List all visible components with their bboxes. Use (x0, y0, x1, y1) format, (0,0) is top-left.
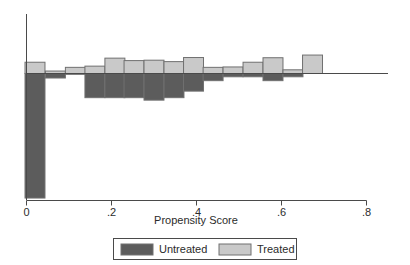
legend-label-untreated: Untreated (159, 243, 207, 255)
bar-treated-0 (25, 62, 45, 73)
bar-untreated-9 (203, 74, 223, 81)
bar-untreated-5 (124, 74, 144, 98)
bar-treated-6 (144, 60, 164, 73)
bar-untreated-3 (85, 74, 105, 98)
bar-untreated-0 (25, 74, 45, 199)
bar-untreated-7 (164, 74, 184, 98)
x-axis-title: Propensity Score (154, 214, 238, 226)
bar-untreated-6 (144, 74, 164, 101)
bar-treated-8 (184, 58, 204, 74)
bar-treated-11 (243, 62, 263, 73)
x-tick-label-3: .6 (277, 206, 286, 218)
bar-treated-9 (203, 67, 223, 73)
x-tick-label-4: .8 (362, 206, 371, 218)
bar-untreated-12 (263, 74, 283, 81)
bar-treated-2 (65, 67, 85, 73)
bar-treated-7 (164, 62, 184, 74)
bar-treated-5 (124, 61, 144, 74)
bar-untreated-8 (184, 74, 204, 92)
legend-label-treated: Treated (257, 243, 295, 255)
x-tick-label-0: 0 (23, 206, 29, 218)
bar-untreated-1 (45, 74, 65, 79)
x-tick-label-1: .2 (107, 206, 116, 218)
bar-treated-3 (85, 66, 105, 73)
legend-swatch-treated (219, 244, 251, 255)
legend-swatch-untreated (121, 244, 153, 255)
bar-treated-4 (105, 58, 125, 73)
figure-root: 0.2.4.6.8 Propensity Score Untreated Tre… (0, 0, 410, 265)
bar-untreated-4 (105, 74, 125, 98)
bar-treated-13 (283, 70, 303, 74)
chart-legend: Untreated Treated (114, 239, 297, 260)
propensity-score-histogram: 0.2.4.6.8 Propensity Score Untreated Tre… (0, 0, 410, 265)
bar-treated-12 (263, 58, 283, 74)
bar-treated-14 (303, 55, 323, 73)
bar-treated-10 (223, 67, 243, 74)
